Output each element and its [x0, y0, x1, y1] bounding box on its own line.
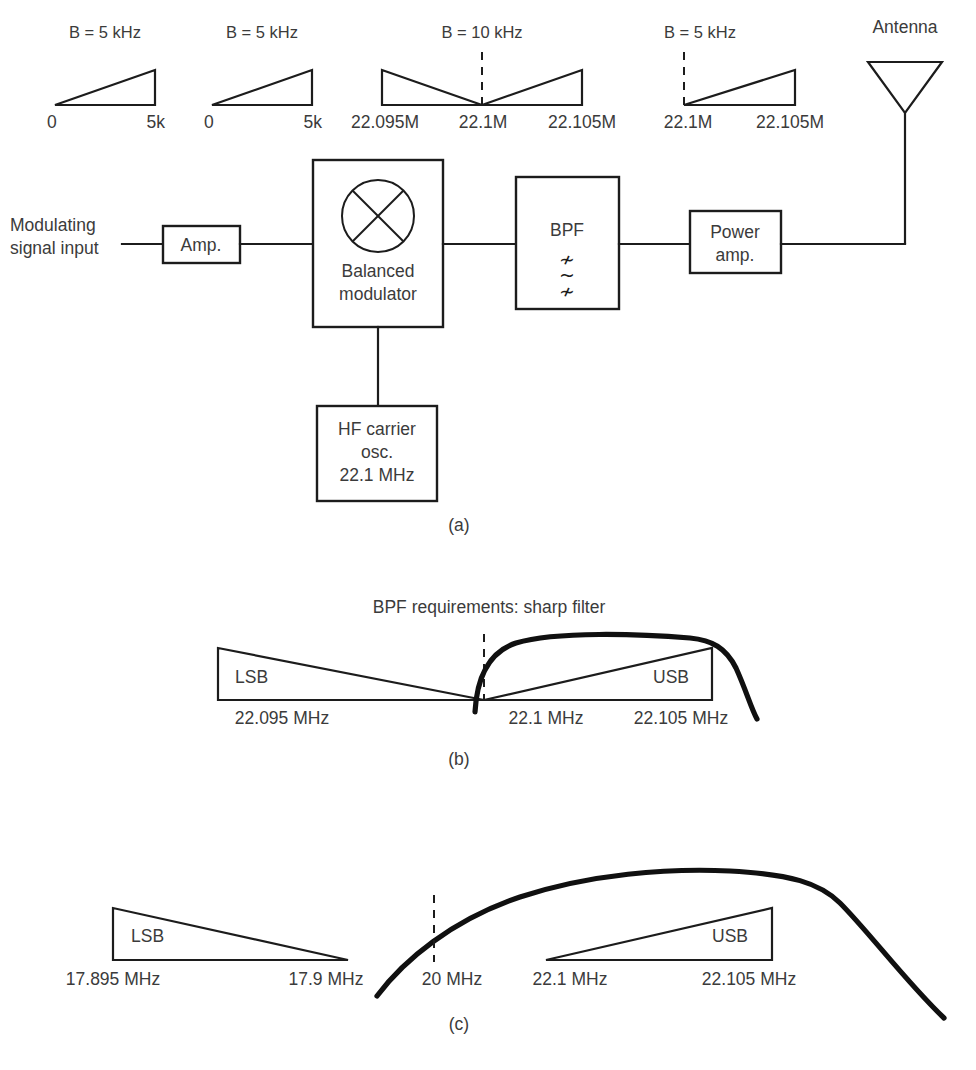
spectrum-2-left-tick: 0 — [204, 112, 214, 132]
spectrum-2: B = 5 kHz 0 5k — [204, 23, 322, 132]
spectrum-4-bandwidth-label: B = 5 kHz — [664, 23, 736, 41]
bpf-symbol-bottom: ≁ — [559, 280, 575, 302]
figure-svg: B = 5 kHz 0 5k B = 5 kHz 0 5k B = 10 kHz… — [0, 0, 976, 1070]
spectrum-4-left-tick: 22.1M — [664, 112, 713, 132]
spectrum-4: B = 5 kHz 22.1M 22.105M — [664, 23, 824, 132]
balanced-modulator-block: Balanced modulator — [313, 160, 443, 327]
figure-canvas: B = 5 kHz 0 5k B = 5 kHz 0 5k B = 10 kHz… — [0, 0, 976, 1070]
panel-b-caption: BPF requirements: sharp filter — [373, 597, 606, 617]
panel-b: BPF requirements: sharp filter LSB USB 2… — [218, 597, 757, 769]
amp-block-label: Amp. — [181, 235, 222, 255]
power-amp-label-line1: Power — [710, 222, 760, 242]
hf-carrier-osc-block: HF carrier osc. 22.1 MHz — [317, 406, 437, 501]
antenna: Antenna — [868, 17, 942, 243]
power-amp-label-line2: amp. — [716, 245, 755, 265]
spectrum-3-lsb-triangle — [382, 70, 482, 105]
amp-block: Amp. — [163, 226, 240, 263]
spectrum-2-triangle — [212, 70, 312, 105]
panel-c-lsb-label: LSB — [131, 926, 164, 946]
spectrum-1-left-tick: 0 — [47, 112, 57, 132]
spectrum-1: B = 5 kHz 0 5k — [47, 23, 165, 132]
spectrum-3-right-tick: 22.105M — [548, 112, 616, 132]
panel-b-label: (b) — [448, 749, 469, 769]
power-amp-block: Power amp. — [690, 211, 781, 273]
input-label-line2: signal input — [10, 238, 99, 258]
panel-c-tick-20: 20 MHz — [422, 969, 482, 989]
bpf-block-label: BPF — [550, 220, 584, 240]
spectrum-1-triangle — [55, 70, 155, 105]
spectrum-3-center-tick: 22.1M — [459, 112, 508, 132]
panel-c-tick-22105: 22.105 MHz — [702, 969, 796, 989]
spectrum-4-triangle — [684, 70, 795, 105]
hf-carrier-osc-line1: HF carrier — [338, 419, 416, 439]
panel-b-usb-label: USB — [653, 667, 689, 687]
input-label-line1: Modulating — [10, 215, 96, 235]
spectrum-2-bandwidth-label: B = 5 kHz — [226, 23, 298, 41]
spectrum-3: B = 10 kHz 22.095M 22.1M 22.105M — [351, 23, 616, 132]
spectrum-3-usb-triangle — [482, 70, 582, 105]
spectrum-2-right-tick: 5k — [304, 112, 323, 132]
bandpass-filter-icon: ≁ ~ ≁ — [559, 248, 575, 302]
spectrum-3-left-tick: 22.095M — [351, 112, 419, 132]
bpf-block: BPF ≁ ~ ≁ — [516, 177, 619, 309]
hf-carrier-osc-line3: 22.1 MHz — [340, 465, 415, 485]
panel-a-label: (a) — [448, 515, 469, 535]
panel-c-usb-label: USB — [712, 926, 748, 946]
panel-c: LSB 17.895 MHz 17.9 MHz 20 MHz USB 22.1 … — [66, 870, 944, 1034]
antenna-label: Antenna — [872, 17, 937, 37]
panel-c-label: (c) — [449, 1014, 469, 1034]
balanced-modulator-label-line2: modulator — [339, 284, 417, 304]
spectrum-4-right-tick: 22.105M — [756, 112, 824, 132]
spectrum-1-right-tick: 5k — [147, 112, 166, 132]
panel-b-tick-right: 22.105 MHz — [634, 708, 728, 728]
panel-c-tick-179: 17.9 MHz — [289, 969, 364, 989]
panel-b-tick-center: 22.1 MHz — [509, 708, 584, 728]
antenna-icon — [868, 62, 942, 113]
spectrum-3-bandwidth-label: B = 10 kHz — [441, 23, 522, 41]
panel-b-tick-left: 22.095 MHz — [235, 708, 329, 728]
panel-b-filter-curve — [475, 634, 757, 719]
panel-b-lsb-label: LSB — [235, 667, 268, 687]
hf-carrier-osc-line2: osc. — [361, 442, 393, 462]
spectrum-1-bandwidth-label: B = 5 kHz — [69, 23, 141, 41]
panel-c-tick-17895: 17.895 MHz — [66, 969, 160, 989]
panel-c-tick-221: 22.1 MHz — [533, 969, 608, 989]
panel-c-filter-curve — [377, 870, 944, 1018]
balanced-modulator-label-line1: Balanced — [342, 261, 415, 281]
